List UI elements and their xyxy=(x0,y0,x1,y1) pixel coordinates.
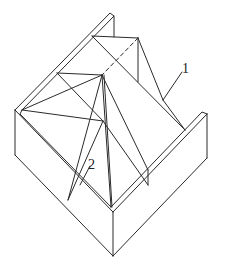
label-2: 2 xyxy=(88,158,95,172)
box-walls xyxy=(15,13,207,256)
label-1: 1 xyxy=(182,62,189,76)
folded-structure xyxy=(22,36,185,207)
tray-fold-diagram xyxy=(0,0,237,264)
